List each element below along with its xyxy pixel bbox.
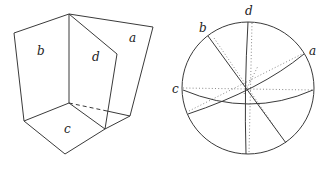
label-d-right: d [245,4,253,18]
face-b-outline [14,14,69,121]
diagram-svg: b d a c d b a c [0,0,325,169]
primitive-circle [182,22,314,154]
label-a-right: a [309,44,316,58]
label-c-right: c [172,82,179,96]
label-d-left: d [92,50,100,64]
label-a-left: a [129,31,136,45]
edge-a-bottom [107,111,130,116]
label-c-left: c [64,122,71,136]
wedge-figure: b d a c [14,14,153,154]
label-b-right: b [199,21,207,35]
face-c-outline [24,116,130,154]
diagram-canvas: b d a c d b a c [0,0,325,169]
great-circle-c [183,90,313,104]
face-a-outline [69,14,153,116]
edge-c-inner [69,103,105,129]
stereonet-figure: d b a c [172,4,316,154]
label-b-left: b [37,44,45,58]
